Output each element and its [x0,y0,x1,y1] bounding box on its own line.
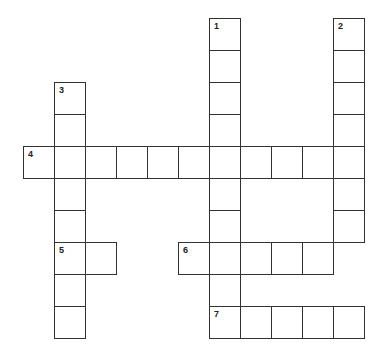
crossword-cell[interactable]: 2 [333,18,365,51]
crossword-cell[interactable] [54,210,86,243]
clue-number: 6 [183,246,188,255]
clue-number: 2 [338,22,343,31]
crossword-cell[interactable] [302,306,334,339]
crossword-cell[interactable] [271,242,303,275]
crossword-cell[interactable] [54,114,86,147]
crossword-cell[interactable] [54,274,86,307]
crossword-cell[interactable] [240,146,272,179]
crossword-cell[interactable] [178,146,210,179]
clue-number: 1 [214,22,219,31]
crossword-cell[interactable] [209,242,241,275]
crossword-cell[interactable] [209,178,241,211]
crossword-cell[interactable]: 1 [209,18,241,51]
crossword-cell[interactable]: 3 [54,82,86,115]
clue-number: 3 [59,86,64,95]
crossword-cell[interactable] [302,242,334,275]
crossword-cell[interactable] [333,50,365,83]
crossword-cell[interactable] [147,146,179,179]
crossword-cell[interactable] [85,146,117,179]
crossword-cell[interactable] [209,146,241,179]
crossword-cell[interactable] [240,306,272,339]
crossword-cell[interactable] [54,146,86,179]
crossword-cell[interactable] [333,114,365,147]
crossword-cell[interactable] [85,242,117,275]
crossword-cell[interactable]: 7 [209,306,241,339]
crossword-cell[interactable] [271,146,303,179]
crossword-grid: 1723546 [0,0,387,356]
crossword-cell[interactable] [209,114,241,147]
crossword-cell[interactable]: 5 [54,242,86,275]
crossword-cell[interactable] [54,306,86,339]
crossword-cell[interactable] [209,210,241,243]
crossword-cell[interactable] [333,82,365,115]
crossword-cell[interactable] [116,146,148,179]
crossword-cell[interactable] [54,178,86,211]
crossword-cell[interactable] [271,306,303,339]
crossword-cell[interactable] [302,146,334,179]
crossword-cell[interactable] [209,82,241,115]
clue-number: 5 [59,246,64,255]
crossword-cell[interactable]: 4 [23,146,55,179]
crossword-cell[interactable]: 6 [178,242,210,275]
crossword-cell[interactable] [333,146,365,179]
crossword-cell[interactable] [333,178,365,211]
crossword-cell[interactable] [209,274,241,307]
crossword-cell[interactable] [209,50,241,83]
crossword-cell[interactable] [333,306,365,339]
crossword-cell[interactable] [240,242,272,275]
clue-number: 7 [214,310,219,319]
crossword-cell[interactable] [333,210,365,243]
clue-number: 4 [28,150,33,159]
